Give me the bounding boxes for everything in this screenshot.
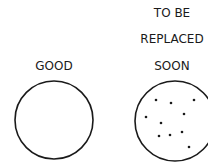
good-circle-icon xyxy=(15,81,93,159)
dirt-spot-icon xyxy=(169,134,172,137)
dirt-spots xyxy=(145,99,196,149)
replace-label-line1: TO BE xyxy=(153,6,190,20)
filter-condition-diagram: GOOD TO BE REPLACED SOON xyxy=(0,0,208,164)
good-label: GOOD xyxy=(35,59,72,73)
dirty-circle-icon xyxy=(135,81,208,161)
replace-label-line2: REPLACED xyxy=(140,32,203,46)
dirt-spot-icon xyxy=(193,99,196,102)
dirt-spot-icon xyxy=(188,146,191,149)
dirt-spot-icon xyxy=(158,135,161,138)
dirt-spot-icon xyxy=(183,113,186,116)
replace-label-line3: SOON xyxy=(154,59,189,73)
dirt-spot-icon xyxy=(181,131,184,134)
dirt-spot-icon xyxy=(145,116,148,119)
dirt-spot-icon xyxy=(170,102,173,105)
dirt-spot-icon xyxy=(160,122,163,125)
dirt-spot-icon xyxy=(155,99,158,102)
